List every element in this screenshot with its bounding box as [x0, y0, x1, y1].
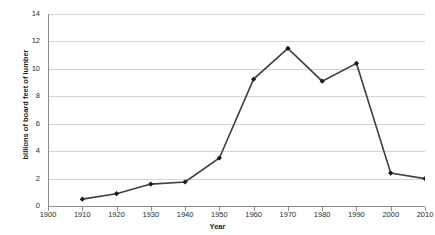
y-axis-title: billions of board feet of lumber	[21, 25, 30, 185]
y-tick-label: 14	[18, 10, 40, 18]
x-tick-label: 1900	[31, 211, 65, 219]
data-point-marker	[388, 170, 393, 175]
line-chart: 02468101214 1900191019201930194019501960…	[0, 0, 435, 235]
x-tick-label: 1960	[237, 211, 271, 219]
plot-area	[48, 14, 425, 206]
x-tick-label: 1920	[100, 211, 134, 219]
data-point-marker	[114, 191, 119, 196]
x-tick-label: 1940	[168, 211, 202, 219]
x-tick-label: 1980	[305, 211, 339, 219]
data-line	[82, 48, 425, 199]
x-axis-spine	[48, 206, 425, 207]
x-axis-title: Year	[0, 222, 435, 231]
data-series-line	[48, 14, 425, 206]
y-tick-label: 0	[18, 202, 40, 210]
x-tick-label: 2000	[374, 211, 408, 219]
x-tick-label: 2010	[408, 211, 435, 219]
x-tick-label: 1910	[65, 211, 99, 219]
x-tick-label: 1970	[271, 211, 305, 219]
data-point-marker	[80, 197, 85, 202]
x-tick-label: 1990	[339, 211, 373, 219]
x-tick-label: 1950	[202, 211, 236, 219]
data-point-marker	[422, 176, 425, 181]
x-tick-label: 1930	[134, 211, 168, 219]
data-point-marker	[148, 181, 153, 186]
